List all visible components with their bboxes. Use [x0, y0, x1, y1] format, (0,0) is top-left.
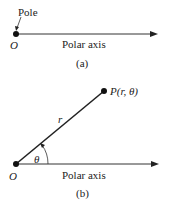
radius-line — [16, 91, 104, 164]
angle-arc-arrowhead — [40, 143, 45, 148]
radius-label: r — [58, 113, 62, 125]
point-p-label: P(r, θ) — [110, 85, 138, 97]
angle-arc — [42, 145, 48, 164]
caption-b: (b) — [76, 187, 89, 199]
theta-angle-label: θ — [34, 153, 39, 165]
pole-pointer-line — [17, 17, 21, 28]
point-p-dot — [101, 88, 107, 94]
origin-label-a: O — [10, 39, 18, 51]
polar-axis-label-b: Polar axis — [62, 169, 106, 181]
pole-pointer-arrowhead — [15, 26, 19, 31]
axis-arrowhead-b — [151, 161, 159, 167]
origin-label-b: O — [9, 170, 17, 182]
axis-arrowhead-a — [150, 31, 158, 37]
pole-dot — [13, 31, 19, 37]
pole-label: Pole — [18, 6, 38, 18]
caption-a: (a) — [76, 57, 88, 69]
origin-dot-b — [13, 161, 19, 167]
diagram-a — [13, 17, 158, 37]
polar-axis-label-a: Polar axis — [62, 38, 106, 50]
